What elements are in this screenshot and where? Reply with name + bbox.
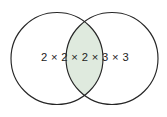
venn-diagram: 2 × 2 × 2 × 3 × 3 [0,0,167,117]
venn-diagram-canvas: 2 × 2 × 2 × 3 × 3 [0,0,167,117]
factorization-label: 2 × 2 × 2 × 3 × 3 [41,51,129,63]
